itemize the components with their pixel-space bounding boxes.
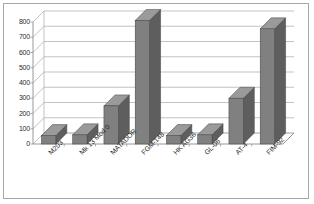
- x-axis-category-label: FGM-148: [140, 131, 166, 157]
- x-axis-category-label: GL-06: [203, 138, 222, 157]
- x-axis-category-label: Mk 13 Mod 0: [78, 123, 111, 156]
- chart-frame: 0100200300400500600700800 M203Mk 13 Mod …: [3, 3, 309, 199]
- chart-plot-area: 0100200300400500600700800 M203Mk 13 Mod …: [4, 4, 310, 200]
- x-axis-category-label: MATADOR: [109, 127, 138, 156]
- x-axis-category-label: HK AG36: [172, 131, 198, 157]
- screenshot-root: 0100200300400500600700800 M203Mk 13 Mod …: [0, 0, 314, 204]
- x-axis-category-labels: M203Mk 13 Mod 0MATADORFGM-148HK AG36GL-0…: [4, 4, 310, 200]
- x-axis-category-label: FIM-92: [265, 136, 286, 157]
- x-axis-category-label: AT-4: [234, 141, 249, 156]
- x-axis-category-label: M203: [47, 139, 65, 157]
